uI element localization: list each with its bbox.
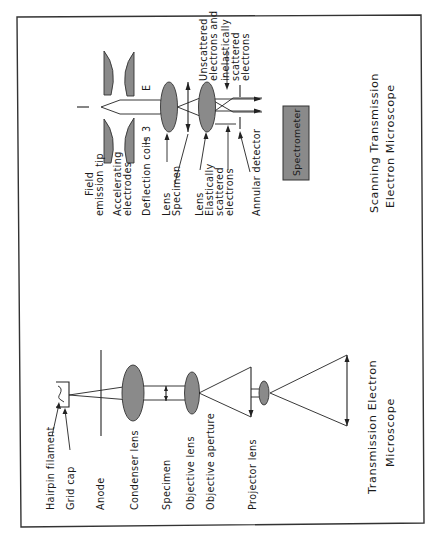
stem-caption-2: Electron Microscope [384,84,397,208]
label-tem-specimen: Specimen [161,459,172,510]
arrowhead [56,402,61,409]
arrowhead [165,133,170,140]
arrowhead [186,82,191,90]
label-condenser: Condenser lens [129,430,140,510]
tem-ray-1 [199,367,251,393]
arrowhead [238,131,243,139]
tem-caption-2: Microscope [384,398,397,467]
arrowhead [254,97,262,102]
arrowhead [63,408,68,414]
accel-electrode-3 [125,52,134,96]
label-anode: Anode [95,477,106,510]
label-unscattered-2: electrons and [208,11,219,82]
tem-caption-1: Transmission Electron [366,360,379,495]
stem-caption-1: Scanning Transmission [368,73,381,213]
hairpin-filament [58,386,64,402]
arrowhead [226,125,231,132]
arrowhead [186,124,191,132]
grid-cap [56,382,69,407]
tem-ray-4 [270,393,347,426]
label-annular: Annular detector [251,129,262,216]
leader-gridcap [65,410,70,450]
label-hairpin: Hairpin filament [45,426,56,510]
label-unscattered-5: electrons [240,33,251,81]
label-gridcap: Grid cap [65,466,76,510]
microscope-comparison-diagram: Spectrometer Field emission tip Accelera… [0,0,437,538]
objective-lens [185,372,200,414]
stem-lens-2 [199,82,216,132]
arrowhead [164,386,168,391]
leader-annular [240,133,250,172]
arrowhead [254,109,262,114]
label-specimen: Specimen [171,165,182,216]
spectrometer-label: Spectrometer [291,108,302,176]
figure-frame [17,15,424,527]
label-field-2: emission tip [94,153,105,216]
deflection-coil-symbol-top: E [141,85,152,91]
label-elastic-3: electrons [224,168,235,216]
label-deflection: Deflection coils [141,136,152,216]
arrowhead [204,132,209,139]
deflection-coil-symbol: 3 [141,125,152,132]
label-objective-aperture: Objective aperture [205,413,216,510]
stem-lens-1 [161,82,178,132]
accel-electrode-1 [104,51,113,95]
condenser-lens [122,365,144,421]
accel-electrode-4 [125,118,134,163]
stem-beam-upper [101,98,262,118]
projector-lens [259,381,269,405]
stem-diagram: Spectrometer Field emission tip Accelera… [77,11,397,217]
label-projector: Projector lens [247,439,258,510]
tem-diagram: Hairpin filament Grid cap Anode Condense… [45,350,397,510]
tem-ray-3 [270,355,347,393]
arrowhead [225,83,230,90]
label-accel-2: electrodes [122,162,133,216]
label-objective-lens: Objective lens [185,436,196,510]
